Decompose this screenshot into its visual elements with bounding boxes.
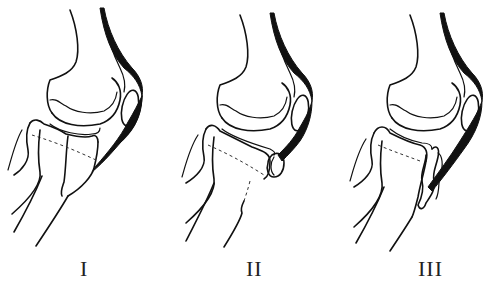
- panel-3-drawing: [350, 13, 483, 251]
- panel-label-1: I: [80, 256, 88, 282]
- panel-label-3: III: [418, 256, 443, 282]
- panel-1-drawing: [8, 8, 143, 246]
- panel-2-drawing: [182, 13, 313, 247]
- knee-diagram-figure: [0, 0, 497, 289]
- panel-label-2: II: [246, 256, 263, 282]
